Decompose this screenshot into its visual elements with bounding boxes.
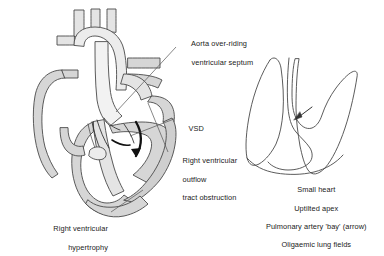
label-rv-outflow-obstruction: Right ventricular outflow tract obstruct… [174,147,237,211]
label-vsd-text: VSD [189,124,204,133]
papillary-muscle [89,147,106,160]
label-rvoto-line1: Right ventricular [183,156,238,165]
heart-cross-section-artwork [33,9,176,217]
right-subclavian-branch [57,36,74,45]
label-rv-hypertrophy: Right ventricular hypertrophy [4,215,108,256]
caption-line3: Pulmonary artery 'bay' (arrow) [266,222,367,231]
label-rvh-line2: hypertrophy [68,243,108,252]
shunt-flow-arrowhead [131,148,141,157]
label-rvh-line1: Right ventricular [53,224,108,233]
left-subclavian-artery [107,9,116,32]
chest-xray-caption: Small heart Uptilted apex Pulmonary arte… [242,176,382,256]
label-aorta-overriding: Aorta over-riding ventricular septum [183,30,253,76]
label-aorta-line1: Aorta over-riding [191,39,247,48]
descending-aorta-shape [33,70,65,178]
caption-line1: Small heart [297,185,335,194]
caption-line2: Uptilted apex [294,204,338,213]
descending-aorta-cap [62,70,78,78]
septal-flow-arrow [112,140,130,145]
right-atrium-wall [148,96,174,122]
label-rvoto-line2: outflow [183,175,207,184]
caption-line4: Oligaemic lung fields [281,240,351,249]
superior-vena-cava [128,58,160,68]
chest-xray-artwork [246,58,357,174]
label-aorta-line2: ventricular septum [192,58,254,67]
label-rvoto-line3: tract obstruction [183,193,237,202]
label-vsd: VSD [180,115,204,143]
